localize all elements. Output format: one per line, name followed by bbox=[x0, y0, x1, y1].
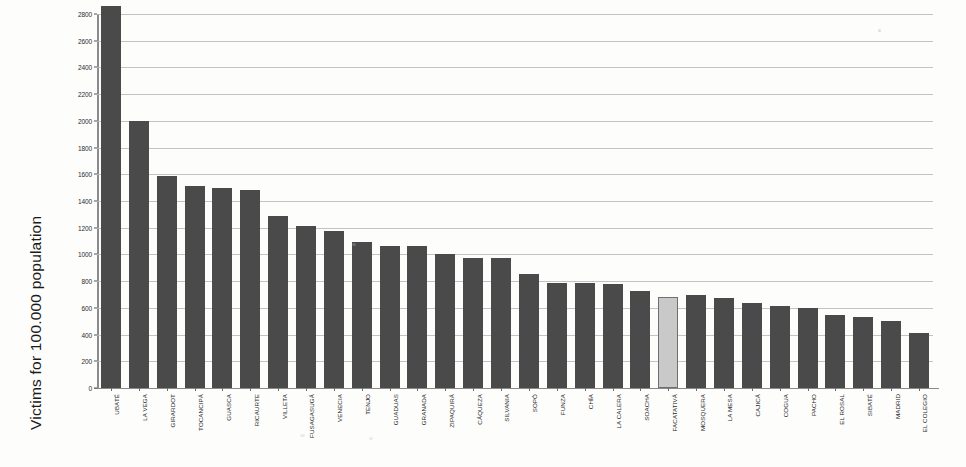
x-tick-label: SIBATÉ bbox=[866, 394, 873, 416]
bar[interactable] bbox=[575, 283, 595, 388]
x-tick-label: LA MESA bbox=[726, 394, 733, 421]
x-tick-label: VENECIA bbox=[336, 394, 343, 422]
y-tick-label: 400 bbox=[81, 331, 92, 338]
y-tick-label: 1400 bbox=[78, 198, 92, 205]
x-tick-label: GUADUAS bbox=[392, 394, 399, 425]
x-tick-label: FUSAGASUGÁ bbox=[308, 394, 315, 438]
bar-chart: Victims for 100.000 population 020040060… bbox=[0, 0, 966, 467]
x-tick-label: RICAURTE bbox=[253, 394, 260, 426]
y-tick-label: 2200 bbox=[78, 91, 92, 98]
x-tick-label: CÁQUEZA bbox=[476, 394, 483, 425]
x-tick-mark bbox=[222, 388, 223, 391]
x-tick-mark bbox=[557, 388, 558, 391]
bar[interactable] bbox=[101, 6, 121, 388]
x-tick-mark bbox=[390, 388, 391, 391]
bar[interactable] bbox=[324, 231, 344, 388]
bar[interactable] bbox=[881, 321, 901, 388]
x-tick-mark bbox=[752, 388, 753, 391]
x-tick-label: UBATÉ bbox=[113, 394, 120, 415]
x-tick-mark bbox=[640, 388, 641, 391]
x-tick-mark bbox=[724, 388, 725, 391]
x-tick-label: PACHO bbox=[810, 394, 817, 416]
scan-speckle bbox=[878, 29, 881, 32]
y-axis-title: Victims for 100.000 population bbox=[16, 30, 56, 430]
x-tick-mark bbox=[891, 388, 892, 391]
y-tick-label: 0 bbox=[88, 385, 92, 392]
x-tick-mark bbox=[473, 388, 474, 391]
bar[interactable] bbox=[770, 306, 790, 388]
x-axis-labels: UBATÉLA VEGAGIRARDOTTOCANCIPÁGUASCARICAU… bbox=[97, 388, 933, 467]
x-tick-mark bbox=[919, 388, 920, 391]
x-tick-mark bbox=[306, 388, 307, 391]
scan-speckle bbox=[369, 437, 373, 440]
x-tick-mark bbox=[278, 388, 279, 391]
x-tick-mark bbox=[501, 388, 502, 391]
y-tick-label: 2600 bbox=[78, 37, 92, 44]
x-tick-label: ZIPAQUIRÁ bbox=[448, 394, 455, 428]
bar[interactable] bbox=[547, 283, 567, 388]
x-tick-mark bbox=[529, 388, 530, 391]
x-tick-mark bbox=[613, 388, 614, 391]
x-tick-mark bbox=[195, 388, 196, 391]
x-tick-label: GIRARDOT bbox=[169, 394, 176, 427]
x-tick-label: FACATATIVÁ bbox=[671, 394, 678, 431]
bar[interactable] bbox=[380, 246, 400, 388]
x-tick-mark bbox=[696, 388, 697, 391]
x-tick-mark bbox=[111, 388, 112, 391]
bar[interactable] bbox=[742, 303, 762, 388]
bar[interactable] bbox=[519, 274, 539, 388]
x-tick-label: CHÍA bbox=[587, 394, 594, 409]
x-tick-mark bbox=[362, 388, 363, 391]
x-tick-label: FUNZA bbox=[559, 394, 566, 415]
x-tick-label: LA VEGA bbox=[141, 394, 148, 421]
bar[interactable] bbox=[157, 176, 177, 388]
bar[interactable] bbox=[129, 121, 149, 388]
bar[interactable] bbox=[268, 216, 288, 388]
y-tick-label: 200 bbox=[81, 358, 92, 365]
x-tick-mark bbox=[445, 388, 446, 391]
bar[interactable] bbox=[352, 242, 372, 388]
bar[interactable] bbox=[798, 308, 818, 388]
x-tick-label: LA CALERA bbox=[615, 394, 622, 429]
x-tick-mark bbox=[585, 388, 586, 391]
x-tick-mark bbox=[139, 388, 140, 391]
bar[interactable] bbox=[185, 186, 205, 388]
bar[interactable] bbox=[909, 333, 929, 388]
bar[interactable] bbox=[714, 298, 734, 388]
x-tick-label: EL ROSAL bbox=[838, 394, 845, 425]
x-tick-mark bbox=[167, 388, 168, 391]
bar[interactable] bbox=[491, 258, 511, 388]
bar[interactable] bbox=[825, 315, 845, 388]
bar[interactable] bbox=[630, 291, 650, 389]
x-tick-label: MADRID bbox=[894, 394, 901, 419]
scan-speckle bbox=[352, 243, 356, 246]
bar[interactable] bbox=[240, 190, 260, 388]
bar[interactable] bbox=[463, 258, 483, 388]
x-tick-mark bbox=[668, 388, 669, 391]
scan-speckle bbox=[300, 434, 305, 437]
bar[interactable] bbox=[212, 188, 232, 388]
x-tick-mark bbox=[808, 388, 809, 391]
y-tick-label: 600 bbox=[81, 304, 92, 311]
bar[interactable] bbox=[658, 297, 678, 388]
bar[interactable] bbox=[435, 254, 455, 388]
x-tick-label: GRANADA bbox=[420, 394, 427, 425]
x-tick-mark bbox=[417, 388, 418, 391]
y-tick-label: 2000 bbox=[78, 117, 92, 124]
bar[interactable] bbox=[603, 284, 623, 388]
x-tick-label: SILVANIA bbox=[503, 394, 510, 422]
x-tick-label: TOCANCIPÁ bbox=[197, 394, 204, 431]
x-tick-mark bbox=[835, 388, 836, 391]
y-tick-label: 1000 bbox=[78, 251, 92, 258]
x-tick-label: EL COLEGIO bbox=[921, 394, 928, 432]
bar[interactable] bbox=[407, 246, 427, 388]
bar[interactable] bbox=[686, 295, 706, 389]
x-tick-label: SOPÓ bbox=[531, 394, 538, 412]
y-tick-label: 2800 bbox=[78, 11, 92, 18]
x-tick-mark bbox=[780, 388, 781, 391]
y-tick-label: 1200 bbox=[78, 224, 92, 231]
bar[interactable] bbox=[853, 317, 873, 388]
y-tick-label: 1600 bbox=[78, 171, 92, 178]
x-tick-label: MOSQUERA bbox=[699, 394, 706, 431]
bar[interactable] bbox=[296, 226, 316, 388]
